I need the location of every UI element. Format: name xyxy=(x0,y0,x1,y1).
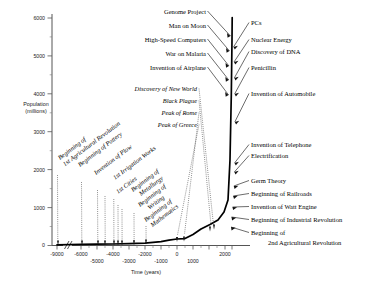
left-roman-leader-lines xyxy=(208,11,231,97)
x-tick-label-2000: 2000 xyxy=(219,251,231,257)
y-tick-label-0: 0 xyxy=(42,242,45,248)
x-tick-label--6000: -6000 xyxy=(74,251,87,257)
annotation-2nd-agricultural-revolution: 2nd Agricultural Revolution xyxy=(268,239,342,246)
left-roman-annotations: Genome Project Man on Moon High-Speed Co… xyxy=(145,8,231,97)
annotation-beginning-of-2nd-agri-line1: Beginning of xyxy=(251,229,286,236)
x-tick-label--2000: -2000 xyxy=(138,251,151,257)
annotation-invention-of-airplane: Invention of Airplane xyxy=(150,64,206,71)
annotation-beginning-of-railroads: Beginning of Railroads xyxy=(251,190,312,197)
x-tick-label-1000: 1000 xyxy=(187,258,199,264)
y-tick-label-6000: 6000 xyxy=(33,15,45,21)
population-history-chart: 0 1000 2000 3000 4000 5000 6000 Populati… xyxy=(0,0,387,281)
annotation-peak-of-greece: Peak of Greece xyxy=(157,121,197,128)
x-tick-label-0: 0 xyxy=(176,251,179,257)
y-axis-title-line2: (millions) xyxy=(25,108,47,114)
annotation-high-speed-computers: High-Speed Computers xyxy=(145,36,207,43)
y-tick-label-1000: 1000 xyxy=(33,205,45,211)
annotation-beginning-of-industrial-revolution: Beginning of Industrial Revolution xyxy=(251,216,343,223)
x-tick-label--4000: -4000 xyxy=(106,251,119,257)
y-tick-label-3000: 3000 xyxy=(33,129,45,135)
x-tick-label--3000: -3000 xyxy=(122,258,135,264)
x-tick-label--1000: -1000 xyxy=(154,258,167,264)
annotation-germ-theory: Germ Theory xyxy=(251,177,287,184)
right-annotations: PCs Nuclear Energy Discovery of DNA Peni… xyxy=(231,19,343,246)
annotation-pcs: PCs xyxy=(251,19,262,26)
rotated-annotations: Beginning of 1st Agricultural Revolution… xyxy=(56,113,179,240)
y-axis-title-line1: Population xyxy=(23,101,48,107)
annotation-penicillin: Penicillin xyxy=(251,64,277,71)
annotation-discovery-of-new-world: Discovery of New World xyxy=(134,85,198,92)
y-tick-label-5000: 5000 xyxy=(33,53,45,59)
annotation-invention-of-watt-engine: Invention of Watt Engine xyxy=(251,203,317,210)
chart-canvas: 0 1000 2000 3000 4000 5000 6000 Populati… xyxy=(0,0,387,281)
x-axis-title: Time (years) xyxy=(131,269,161,275)
x-axis-ticks xyxy=(57,246,232,250)
annotation-peak-of-rome: Peak of Rome xyxy=(161,109,198,116)
x-tick-label--5000: -5000 xyxy=(90,258,103,264)
annotation-electrification: Electrification xyxy=(251,152,289,159)
annotation-discovery-of-dna: Discovery of DNA xyxy=(251,48,301,55)
annotation-black-plague: Black Plague xyxy=(163,97,197,104)
annotation-invention-of-automobile: Invention of Automobile xyxy=(251,90,315,97)
right-leader-lines xyxy=(231,23,249,233)
annotation-nuclear-energy: Nuclear Energy xyxy=(251,36,293,43)
annotation-genome-project: Genome Project xyxy=(164,8,206,15)
y-axis-major-ticks xyxy=(48,18,53,246)
annotation-man-on-moon: Man on Moon xyxy=(169,22,207,29)
x-axis: -9000 -6000 -5000 -4000 -3000 -2000 -100… xyxy=(50,241,250,275)
x-tick-label--9000: -9000 xyxy=(50,251,63,257)
y-tick-label-2000: 2000 xyxy=(33,167,45,173)
y-axis: 0 1000 2000 3000 4000 5000 6000 Populati… xyxy=(23,14,52,248)
y-tick-label-4000: 4000 xyxy=(33,91,45,97)
annotation-invention-of-telephone: Invention of Telephone xyxy=(251,141,312,148)
annotation-war-on-malaria: War on Malaria xyxy=(165,50,206,57)
